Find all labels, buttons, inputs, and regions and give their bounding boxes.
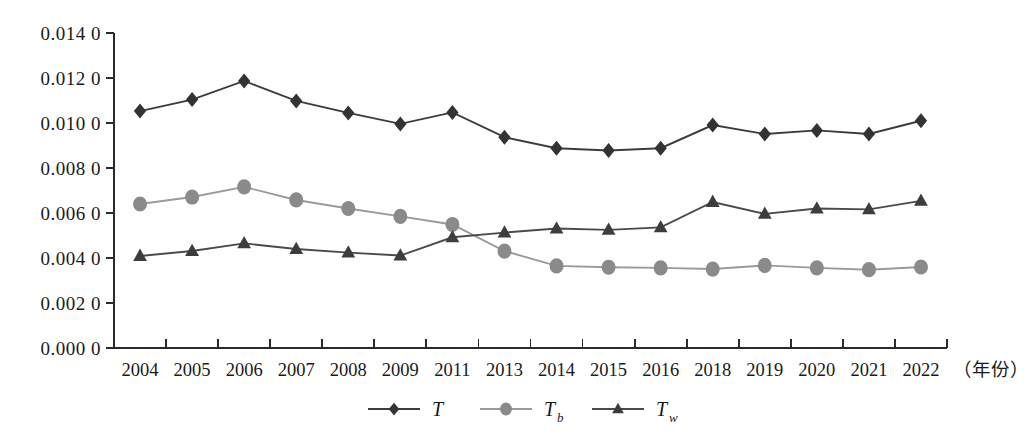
data-point-marker-tw <box>654 220 668 232</box>
data-point-marker-tb <box>341 201 355 216</box>
x-axis-tick-label: 2016 <box>642 360 679 380</box>
legend-item-tw[interactable]: Tw <box>592 398 678 425</box>
legend-item-t[interactable]: T <box>368 398 445 420</box>
legend-label: T <box>544 398 557 420</box>
x-axis-tick-label: 2020 <box>798 360 835 380</box>
series-tw <box>133 193 928 260</box>
data-point-marker-tw <box>706 195 720 207</box>
data-point-marker-tb <box>654 260 668 275</box>
y-axis-tick-label: 0.004 0 <box>41 248 102 269</box>
data-point-marker-t <box>707 118 719 133</box>
legend-label-subscript: b <box>557 410 564 425</box>
data-point-marker-tb <box>550 258 564 273</box>
series-line-tb <box>140 187 921 270</box>
y-axis-tick-labels: 0.000 00.002 00.004 00.006 00.008 00.010… <box>41 23 102 359</box>
series-group <box>133 73 928 277</box>
data-point-marker-tw <box>612 403 624 413</box>
data-point-marker-tw <box>602 223 616 235</box>
data-point-marker-tb <box>445 217 459 232</box>
legend: TTbTw <box>368 398 678 425</box>
legend-item-tb[interactable]: Tb <box>480 398 564 425</box>
x-axis-tick-label: 2013 <box>486 360 523 380</box>
legend-label-subscript: w <box>669 410 678 425</box>
x-axis-unit-label: （年份） <box>953 360 1029 380</box>
data-point-marker-tb <box>497 243 511 258</box>
data-point-marker-t <box>759 127 771 142</box>
data-point-marker-t <box>134 104 146 119</box>
data-point-marker-tb <box>758 258 772 273</box>
x-axis-tick-label: 2004 <box>122 360 159 380</box>
data-point-marker-t <box>915 113 927 128</box>
data-point-marker-tb <box>289 192 303 207</box>
data-point-marker-tw <box>237 236 251 248</box>
data-point-marker-tb <box>914 259 928 274</box>
y-axis-tick-label: 0.008 0 <box>41 158 102 179</box>
data-point-marker-t <box>290 93 302 108</box>
legend-label: T <box>656 398 669 420</box>
y-axis-tick-label: 0.010 0 <box>41 113 102 134</box>
y-axis-tick-label: 0.002 0 <box>41 293 102 314</box>
data-point-marker-t <box>550 141 562 156</box>
x-axis-tick-label: 2014 <box>538 360 575 380</box>
y-axis-tick-label: 0.014 0 <box>41 23 102 44</box>
data-point-marker-tw <box>550 221 564 233</box>
data-point-marker-tb <box>393 209 407 224</box>
legend-label: T <box>432 398 445 420</box>
data-point-marker-tb <box>862 262 876 277</box>
series-line-t <box>140 81 921 151</box>
x-axis-tick-label: 2022 <box>902 360 939 380</box>
data-point-marker-tb <box>500 403 512 416</box>
x-axis-tick-labels: 2004200520062007200820092011201320142015… <box>122 360 940 380</box>
y-axis-tick-label: 0.006 0 <box>41 203 102 224</box>
x-axis-tick-label: 2008 <box>330 360 367 380</box>
data-point-marker-tb <box>810 260 824 275</box>
line-chart: 0.000 00.002 00.004 00.006 00.008 00.010… <box>0 0 1031 437</box>
data-point-marker-t <box>186 92 198 107</box>
data-point-marker-t <box>238 73 250 88</box>
data-point-marker-t <box>394 116 406 131</box>
y-axis-tick-marks <box>106 33 114 348</box>
data-point-marker-t <box>446 105 458 120</box>
x-axis-tick-label: 2015 <box>590 360 627 380</box>
x-axis-tick-marks <box>114 339 947 348</box>
chart-canvas: 0.000 00.002 00.004 00.006 00.008 00.010… <box>0 0 1031 437</box>
data-point-marker-t <box>863 127 875 142</box>
data-point-marker-tb <box>185 189 199 204</box>
data-point-marker-t <box>498 130 510 145</box>
series-tb <box>133 179 928 277</box>
series-line-tw <box>140 201 921 256</box>
data-point-marker-t <box>342 105 354 120</box>
y-axis-tick-label: 0.000 0 <box>41 338 102 359</box>
data-point-marker-tw <box>914 193 928 205</box>
x-axis-tick-label: 2005 <box>174 360 211 380</box>
series-t <box>134 73 927 158</box>
data-point-marker-tb <box>706 261 720 276</box>
data-point-marker-tb <box>602 260 616 275</box>
x-axis-tick-label: 2018 <box>694 360 731 380</box>
data-point-marker-t <box>655 141 667 156</box>
x-axis-tick-label: 2021 <box>850 360 887 380</box>
data-point-marker-t <box>389 403 399 416</box>
x-axis-tick-label: 2011 <box>434 360 470 380</box>
data-point-marker-tb <box>133 196 147 211</box>
data-point-marker-t <box>602 143 614 158</box>
x-axis-tick-label: 2009 <box>382 360 419 380</box>
x-axis-tick-label: 2007 <box>278 360 315 380</box>
data-point-marker-tb <box>237 179 251 194</box>
data-point-marker-tw <box>810 201 824 213</box>
x-axis-tick-label: 2006 <box>226 360 263 380</box>
y-axis-tick-label: 0.012 0 <box>41 68 102 89</box>
data-point-marker-t <box>811 123 823 138</box>
x-axis-tick-label: 2019 <box>746 360 783 380</box>
